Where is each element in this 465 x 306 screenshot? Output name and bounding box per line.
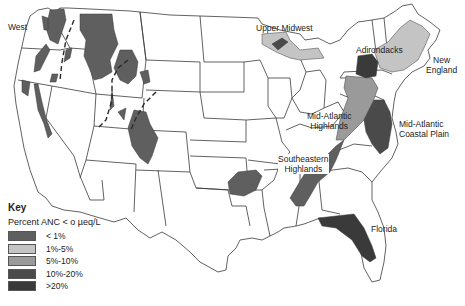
legend-item: 5%-10%: [8, 255, 101, 268]
label-southeastern-highlands: Southeastern Highlands: [278, 154, 329, 174]
label-new-england-line1: New: [426, 55, 457, 65]
legend-subtitle: Percent ANC < o µeq/L: [8, 217, 101, 227]
label-mid-atlantic-coastal-plain: Mid-Atlantic Coastal Plain: [399, 119, 449, 139]
legend-title: Key: [8, 202, 101, 213]
legend-item: 10%-20%: [8, 268, 101, 281]
label-new-england: New England: [426, 55, 457, 75]
label-mid-atlantic-highlands-line2: Highlands: [307, 121, 351, 131]
region-adirondacks: [356, 54, 378, 78]
legend-label: < 1%: [46, 231, 66, 241]
label-mid-atlantic-highlands: Mid-Atlantic Highlands: [307, 111, 351, 131]
legend-label: 1%-5%: [46, 244, 73, 254]
legend-swatch: [8, 269, 36, 279]
label-upper-midwest: Upper Midwest: [256, 23, 313, 33]
legend-label: 10%-20%: [46, 269, 83, 279]
legend-item: >20%: [8, 280, 101, 293]
legend-item: < 1%: [8, 230, 101, 243]
legend-item: 1%-5%: [8, 243, 101, 256]
legend-swatch: [8, 281, 36, 291]
legend-swatch: [8, 244, 36, 254]
legend-swatch: [8, 256, 36, 266]
legend-label: >20%: [46, 281, 68, 291]
label-west: West: [8, 22, 27, 32]
label-mid-atlantic-coastal-plain-line2: Coastal Plain: [399, 129, 449, 139]
label-adirondacks: Adirondacks: [356, 45, 403, 55]
label-florida: Florida: [371, 224, 397, 234]
legend-swatch: [8, 231, 36, 241]
label-mid-atlantic-highlands-line1: Mid-Atlantic: [307, 111, 351, 121]
map-legend: Key Percent ANC < o µeq/L < 1% 1%-5% 5%-…: [8, 202, 101, 293]
label-southeastern-highlands-line2: Highlands: [278, 164, 329, 174]
label-mid-atlantic-coastal-plain-line1: Mid-Atlantic: [399, 119, 449, 129]
legend-label: 5%-10%: [46, 256, 78, 266]
label-new-england-line2: England: [426, 65, 457, 75]
label-southeastern-highlands-line1: Southeastern: [278, 154, 329, 164]
